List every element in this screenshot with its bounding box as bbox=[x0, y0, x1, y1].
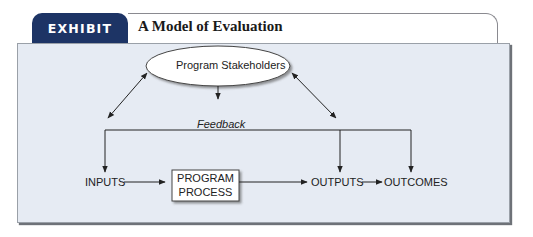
outcomes-label: OUTCOMES bbox=[384, 176, 448, 188]
process-label-line1: PROGRAM bbox=[172, 172, 239, 184]
feedback-label: Feedback bbox=[197, 118, 245, 130]
inputs-label: INPUTS bbox=[85, 176, 125, 188]
stakeholders-label: Program Stakeholders bbox=[176, 59, 285, 71]
diagram-connectors bbox=[0, 0, 533, 237]
outputs-label: OUTPUTS bbox=[311, 176, 364, 188]
process-label-line2: PROCESS bbox=[172, 186, 239, 198]
